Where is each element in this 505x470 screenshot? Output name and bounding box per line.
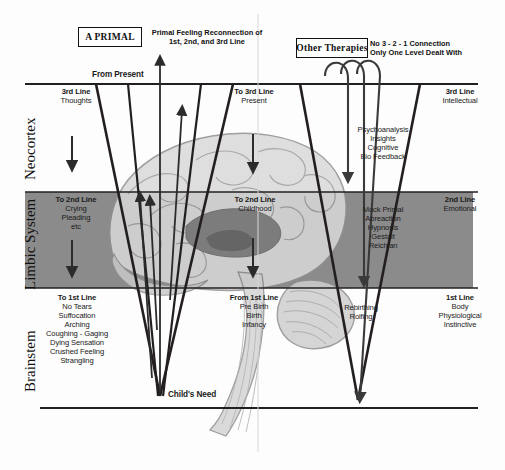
other-therapies-tag-box: Other Therapies	[296, 38, 368, 58]
left-to-1st-line-item-6: Strangling	[30, 357, 124, 366]
therapy-3rd-line-item-3: Bio Feedback	[346, 153, 420, 162]
primal-caption-line-1: Primal Feeling Reconnection of	[142, 28, 272, 37]
middle-from-1st-line-item-2: Infancy	[216, 321, 292, 330]
left-group-3rd-line: 3rd Line Thoughts	[46, 88, 106, 106]
therapy-1st-line-item-1: Rolfing	[330, 313, 392, 322]
hook-arrow-shallow	[325, 63, 348, 178]
middle-group-from-1st-line: From 1st Line Pre Birth Birth Infancy	[216, 294, 292, 330]
therapy-group-3rd-line: Psychoanalysis Insights Cognitive Bio Fe…	[346, 126, 420, 162]
primal-tag-box: A PRIMAL	[78, 27, 142, 47]
other-therapies-caption-line-2: Only One Level Dealt With	[370, 48, 488, 57]
middle-to-2nd-line-item-0: Childhood	[222, 205, 288, 214]
right-1st-line-item-2: Instinctive	[424, 321, 496, 330]
primal-tag-label: A PRIMAL	[85, 32, 135, 42]
right-2nd-line-item-0: Emotional	[428, 205, 492, 214]
middle-to-3rd-line-item-0: Present	[222, 97, 286, 106]
level-label-limbic-system: Limbic System	[22, 199, 39, 290]
middle-group-to-3rd-line: To 3rd Line Present	[222, 88, 286, 106]
left-group-to-2nd-line: To 2nd Line Crying Pleading etc	[44, 196, 108, 232]
childs-need-label: Child's Need	[168, 390, 216, 400]
left-to-2nd-line-item-2: etc	[44, 223, 108, 232]
diagram-graphics	[0, 0, 505, 470]
right-group-3rd-line: 3rd Line Intellectual	[428, 88, 492, 106]
other-therapies-tag-label: Other Therapies	[296, 43, 367, 53]
other-therapies-caption-line-1: No 3 - 2 - 1 Connection	[370, 39, 488, 48]
middle-group-to-2nd-line: To 2nd Line Childhood	[222, 196, 288, 214]
level-label-neocortex: Neocortex	[22, 118, 39, 180]
therapy-group-1st-line: Rebirthing Rolfing	[330, 304, 392, 322]
right-3rd-line-item-0: Intellectual	[428, 97, 492, 106]
diagram-canvas: Neocortex Limbic System Brainstem A PRIM…	[0, 0, 505, 470]
left-3rd-line-item-0: Thoughts	[46, 97, 106, 106]
from-present-label: From Present	[92, 70, 144, 80]
left-group-to-1st-line: To 1st Line No Tears Suffocation Arching…	[30, 294, 124, 366]
other-therapies-caption: No 3 - 2 - 1 Connection Only One Level D…	[370, 39, 488, 58]
primal-caption-line-2: 1st, 2nd, and 3rd Line	[142, 37, 272, 46]
therapy-group-2nd-line: Mock Primal Abreaction Hypnosis Gestalt …	[348, 206, 418, 251]
therapy-2nd-line-item-4: Reichian	[348, 242, 418, 251]
right-group-1st-line: 1st Line Body Physiological Instinctive	[424, 294, 496, 330]
primal-caption: Primal Feeling Reconnection of 1st, 2nd,…	[142, 28, 272, 47]
right-group-2nd-line: 2nd Line Emotional	[428, 196, 492, 214]
